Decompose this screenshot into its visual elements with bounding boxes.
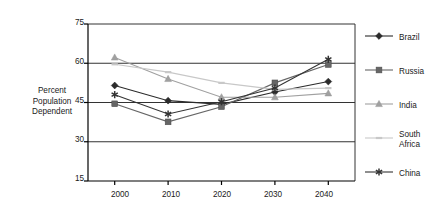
legend-label-south-africa: South Africa: [399, 130, 441, 150]
legend-label-russia: Russia: [399, 67, 424, 77]
legend-label-china: China: [399, 169, 420, 179]
legend-label-brazil: Brazil: [399, 33, 419, 43]
legend-label-india: India: [399, 101, 417, 111]
legend-markers: [365, 33, 393, 176]
plot-area: [0, 0, 445, 222]
series-lines: [111, 54, 331, 125]
chart-figure: Percent Population Dependent 75 60 45 30…: [0, 0, 445, 222]
